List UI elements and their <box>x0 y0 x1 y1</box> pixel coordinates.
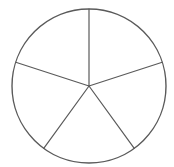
pie-diagram <box>0 0 174 167</box>
